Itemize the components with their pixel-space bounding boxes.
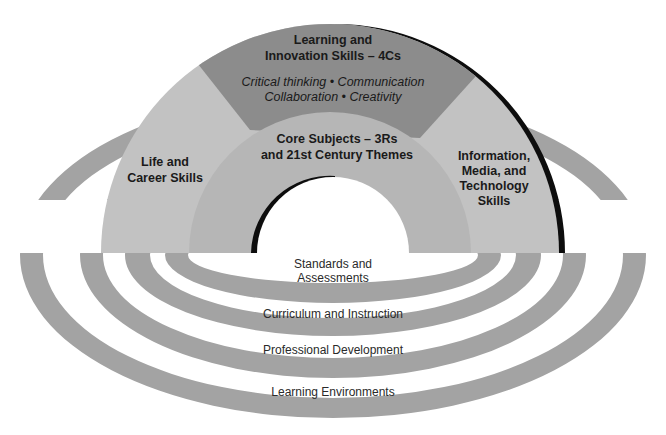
professional-development-label: Professional Development xyxy=(263,343,404,357)
core-subjects-line2: and 21st Century Themes xyxy=(261,148,413,162)
curriculum-instruction-label: Curriculum and Instruction xyxy=(263,307,403,321)
info-media-line2: Media, and xyxy=(462,164,527,178)
info-media-line4: Skills xyxy=(478,194,511,208)
twenty-first-century-learning-diagram: Learning and Innovation Skills – 4Cs Cri… xyxy=(0,0,666,435)
four-cs-items-line1: Critical thinking • Communication xyxy=(242,75,425,89)
four-cs-items-line2: Collaboration • Creativity xyxy=(264,90,402,104)
four-cs-title-line2: Innovation Skills – 4Cs xyxy=(265,49,401,63)
standards-line2: Assessments xyxy=(297,271,368,285)
life-career-line1: Life and xyxy=(141,155,189,169)
life-career-line2: Career Skills xyxy=(127,171,203,185)
learning-environments-label: Learning Environments xyxy=(271,385,394,399)
info-media-line1: Information, xyxy=(458,149,530,163)
info-media-line3: Technology xyxy=(459,179,528,193)
standards-line1: Standards and xyxy=(294,257,372,271)
core-subjects-line1: Core Subjects – 3Rs xyxy=(277,132,398,146)
four-cs-title-line1: Learning and xyxy=(294,33,372,47)
